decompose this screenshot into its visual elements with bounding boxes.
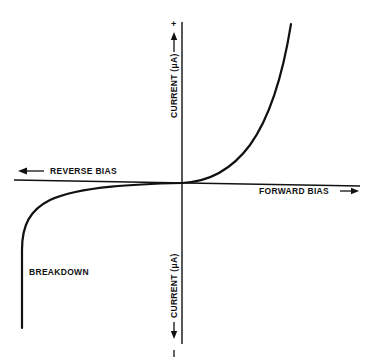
left-arrowhead-icon — [18, 168, 27, 175]
forward-curve — [182, 24, 291, 183]
current-positive-label: CURRENT (μA) — [169, 53, 179, 118]
reverse-bias-label: REVERSE BIAS — [50, 166, 117, 176]
current-negative-label-group: CURRENT (μA) — [169, 253, 179, 357]
current-negative-label: CURRENT (μA) — [169, 253, 179, 318]
right-arrowhead-icon — [351, 188, 359, 194]
forward-bias-label-group: FORWARD BIAS — [259, 186, 359, 196]
forward-bias-label: FORWARD BIAS — [259, 186, 329, 196]
breakdown-label: BREAKDOWN — [29, 267, 89, 277]
reverse-bias-label-group: REVERSE BIAS — [18, 166, 117, 176]
reverse-breakdown-curve — [22, 183, 182, 328]
down-arrowhead-icon — [171, 331, 177, 339]
plus-sign: + — [171, 19, 176, 29]
up-arrowhead-icon — [171, 32, 177, 40]
current-positive-label-group: CURRENT (μA) + — [169, 19, 179, 118]
diode-iv-curve-diagram: REVERSE BIAS FORWARD BIAS CURRENT (μA) +… — [0, 0, 373, 361]
